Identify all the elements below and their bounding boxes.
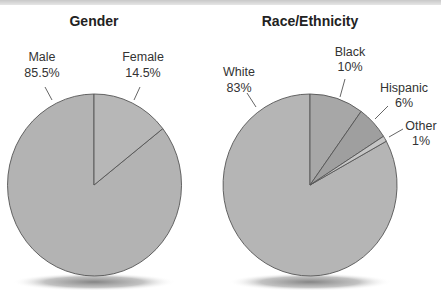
black-label-name: Black <box>335 45 366 59</box>
male-label-pct: 85.5% <box>24 66 59 80</box>
hispanic-leader-line <box>375 106 388 119</box>
race-pie-chart: Race/Ethnicity White 83% Black 10% Hispa… <box>223 13 437 290</box>
race-chart-title: Race/Ethnicity <box>262 13 359 29</box>
black-label-pct: 10% <box>337 60 362 74</box>
gender-pie-chart: Gender Male 85.5% Female 14.5% <box>8 13 182 290</box>
female-label-pct: 14.5% <box>125 66 160 80</box>
white-label-pct: 83% <box>226 81 251 95</box>
gender-chart-title: Gender <box>69 13 119 29</box>
white-label-name: White <box>223 65 255 79</box>
female-label-name: Female <box>122 50 164 64</box>
other-label-pct: 1% <box>412 134 430 148</box>
other-leader-line <box>389 129 403 137</box>
white-leader-line <box>247 93 256 107</box>
male-leader-line <box>45 87 52 100</box>
hispanic-label-name: Hispanic <box>380 81 428 95</box>
hispanic-label-pct: 6% <box>395 96 413 110</box>
other-label-name: Other <box>405 119 436 133</box>
black-leader-line <box>340 79 345 97</box>
female-leader-line <box>134 87 140 100</box>
pie-charts-figure: Gender Male 85.5% Female 14.5% Race/Ethn… <box>0 0 441 290</box>
male-label-name: Male <box>28 50 55 64</box>
